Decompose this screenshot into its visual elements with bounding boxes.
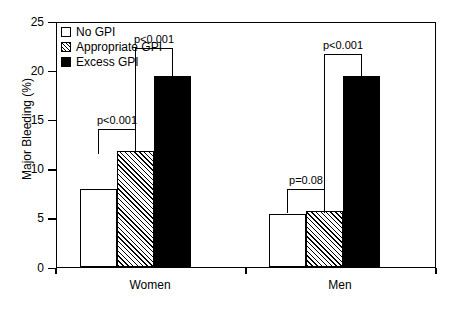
pvalue-men-appropriate-vs-excess: p<0.001 — [303, 39, 383, 51]
y-axis-title: Major Bleeding (%) — [20, 29, 34, 229]
y-tick-label-0: 0 — [0, 261, 44, 275]
bracket-men-no-vs-appropriate — [287, 189, 325, 213]
y-tick-25 — [48, 22, 56, 24]
legend-item-appropriate-gpi: Appropriate GPI — [61, 40, 162, 54]
plot-area: p<0.001 p<0.001 p=0.08 p<0.001 No GPI Ap… — [56, 22, 436, 268]
y-tick-15 — [48, 120, 56, 122]
bracket-women-no-vs-appropriate — [98, 129, 136, 154]
legend-label-appropriate-gpi: Appropriate GPI — [76, 41, 162, 54]
bar-chart-figure: 25 20 15 10 5 0 Major Bleeding (%) p<0.0… — [0, 0, 453, 309]
x-label-men: Men — [300, 278, 380, 292]
white-square-icon — [61, 27, 71, 37]
y-tick-20 — [48, 71, 56, 73]
y-tick-10 — [48, 169, 56, 171]
legend-item-no-gpi: No GPI — [61, 25, 162, 39]
bar-women-no-gpi — [80, 189, 117, 267]
black-square-icon — [61, 57, 71, 67]
legend: No GPI Appropriate GPI Excess GPI — [61, 25, 162, 69]
y-tick-5 — [48, 218, 56, 220]
bar-women-appropriate-gpi — [117, 151, 154, 267]
y-tick-label-25: 25 — [0, 15, 44, 29]
bar-men-appropriate-gpi — [306, 211, 343, 267]
x-tick-right-edge — [435, 268, 437, 274]
x-label-women: Women — [110, 278, 190, 292]
bracket-men-appropriate-vs-excess — [324, 54, 362, 213]
legend-item-excess-gpi: Excess GPI — [61, 55, 162, 69]
x-tick-middle — [245, 268, 247, 274]
bar-men-no-gpi — [269, 214, 306, 267]
legend-label-excess-gpi: Excess GPI — [76, 56, 139, 69]
hatched-square-icon — [61, 42, 71, 52]
x-tick-left-edge — [55, 268, 57, 274]
legend-label-no-gpi: No GPI — [76, 26, 115, 39]
